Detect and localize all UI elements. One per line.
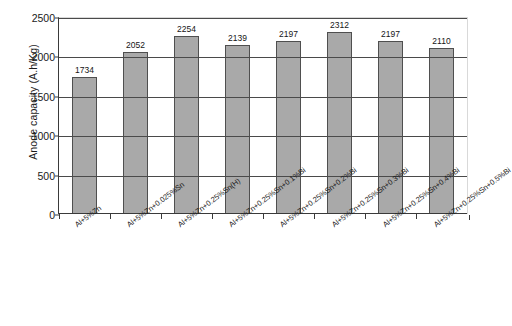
- bar-value-label: 2312: [330, 20, 349, 30]
- bar-value-label: 2197: [381, 29, 400, 39]
- y-axis-tick-label: 2500: [32, 12, 55, 24]
- bar-value-label: 2254: [177, 24, 196, 34]
- y-axis-tick-label: 2000: [32, 51, 55, 63]
- y-axis-tick-mark: [55, 18, 59, 19]
- gridline: [59, 18, 467, 19]
- bar-value-label: 1734: [75, 65, 94, 75]
- x-axis-labels: Al+5%ZnAl+5%Zn+0.025%SnAl+5%Zn+0.25%Sn(H…: [58, 214, 468, 326]
- bar-slot: 2052: [110, 18, 161, 214]
- gridline: [59, 136, 467, 137]
- bar-value-label: 2110: [432, 36, 450, 46]
- x-axis-tick-mark: [469, 215, 470, 220]
- bar-value-label: 2139: [228, 33, 247, 43]
- y-axis-tick-label: 1000: [32, 130, 55, 142]
- bar: 2052: [123, 52, 149, 214]
- y-axis-tick-mark: [55, 136, 59, 137]
- bar-slot: 1734: [59, 18, 110, 214]
- plot-area: 17342052225421392197231221972110 0500100…: [58, 17, 468, 214]
- y-axis-tick-label: 0: [49, 209, 55, 221]
- bar-slot: 2254: [161, 18, 212, 214]
- y-axis-tick-label: 500: [37, 170, 55, 182]
- y-axis-tick-mark: [55, 175, 59, 176]
- y-axis-tick-label: 1500: [32, 91, 55, 103]
- bar: 1734: [72, 77, 98, 214]
- bar-value-label: 2052: [126, 40, 145, 50]
- bar-series: 17342052225421392197231221972110: [59, 18, 467, 214]
- gridline: [59, 57, 467, 58]
- y-axis-tick-mark: [55, 96, 59, 97]
- gridline: [59, 97, 467, 98]
- y-axis-tick-mark: [55, 57, 59, 58]
- bar-value-label: 2197: [279, 29, 298, 39]
